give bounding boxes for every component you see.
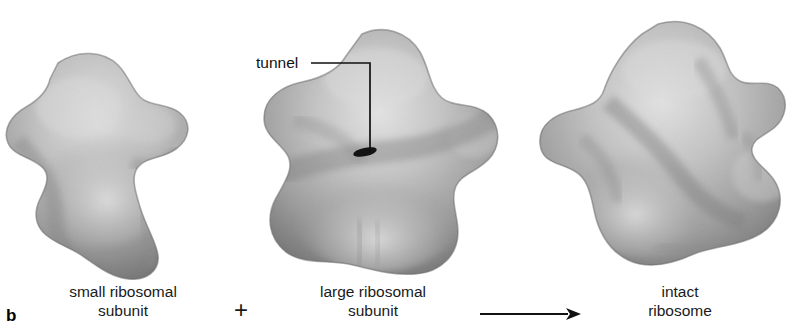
plus-sign: + [228, 296, 254, 324]
tunnel-leader-line [308, 55, 378, 159]
panel-letter-b: b [6, 306, 16, 326]
tunnel-label: tunnel [256, 54, 298, 72]
caption-intact-ribosome-line2: ribosome [600, 301, 760, 320]
small-subunit-body [0, 45, 215, 285]
intact-ribosome-body [538, 14, 806, 282]
caption-large-subunit-line1: large ribosomal [273, 282, 473, 301]
reaction-arrow-icon [478, 303, 584, 325]
intact-ribosome-image [538, 14, 806, 282]
caption-small-subunit-line2: subunit [23, 301, 223, 320]
caption-large-subunit-line2: subunit [273, 301, 473, 320]
tunnel-opening [352, 145, 377, 158]
ribosome-assembly-figure: tunnel + small ribosomal subunit large r… [0, 0, 808, 335]
small-ribosomal-subunit-image [0, 45, 215, 285]
caption-small-subunit-line1: small ribosomal [23, 282, 223, 301]
caption-small-subunit: small ribosomal subunit [23, 282, 223, 320]
caption-large-subunit: large ribosomal subunit [273, 282, 473, 320]
caption-intact-ribosome: intact ribosome [600, 282, 760, 320]
caption-intact-ribosome-line1: intact [600, 282, 760, 301]
